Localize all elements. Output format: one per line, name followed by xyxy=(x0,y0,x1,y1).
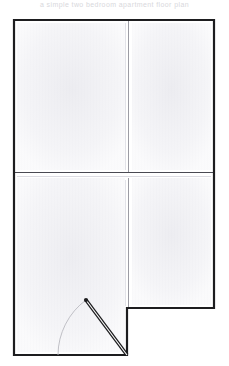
room-fills xyxy=(17,23,211,352)
floor-plan-drawing xyxy=(0,0,229,366)
room-top-right xyxy=(132,23,211,170)
floor-plan-root: a simple two bedroom apartment floor pla… xyxy=(0,0,229,366)
room-top-left xyxy=(17,23,125,170)
door-hinge-point xyxy=(84,298,88,302)
room-bottom-right xyxy=(132,178,211,305)
room-bottom-left xyxy=(17,178,125,352)
